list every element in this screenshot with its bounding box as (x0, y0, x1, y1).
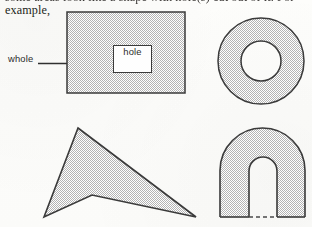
annulus-hatch-fill (210, 10, 312, 114)
shape-arch-inverted-u (214, 120, 312, 222)
rectangle-hole-cutout: hole (113, 45, 152, 73)
concave-triangle-boundary (44, 128, 196, 217)
figure-page: some areas look like a shape with hole(s… (0, 0, 312, 227)
label-hole: hole (114, 46, 151, 57)
shape-annulus-donut (210, 10, 312, 114)
arch-hatch-fill (214, 120, 312, 222)
shape-concave-triangle (44, 128, 196, 217)
shapes-figure-canvas (0, 0, 312, 227)
